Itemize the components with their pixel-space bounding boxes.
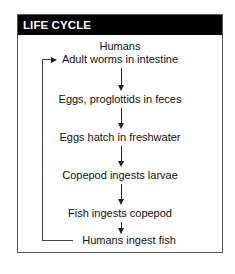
- life-cycle-panel: LIFE CYCLE Humans Adult worms in intesti…: [17, 14, 223, 253]
- host-label: Humans: [18, 40, 222, 53]
- arrow-down-icon: [118, 85, 124, 91]
- panel-title: LIFE CYCLE: [18, 15, 222, 35]
- arrow-down-icon: [118, 161, 124, 167]
- arrow-down-icon: [118, 199, 124, 205]
- arrow-right-icon: [51, 57, 57, 63]
- step-fish: Fish ingests copepod: [18, 207, 222, 220]
- step-eggs-feces: Eggs, proglottids in feces: [18, 93, 222, 106]
- loop-back-line-bottom: [42, 240, 73, 241]
- loop-back-line: [42, 59, 43, 241]
- step-eggs-hatch: Eggs hatch in freshwater: [18, 131, 222, 144]
- step-copepod: Copepod ingests larvae: [18, 169, 222, 182]
- arrow-down-icon: [118, 123, 124, 129]
